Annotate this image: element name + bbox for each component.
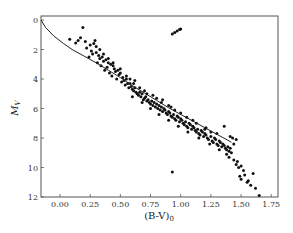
star-point — [68, 38, 71, 41]
star-point — [254, 187, 257, 190]
star-point — [94, 39, 97, 42]
star-point — [124, 83, 127, 86]
star-point — [127, 86, 130, 89]
star-point — [149, 107, 152, 110]
star-point — [223, 144, 226, 147]
star-point — [161, 98, 164, 101]
star-point — [177, 125, 180, 128]
star-point — [217, 144, 220, 147]
star-point — [235, 163, 238, 166]
star-point — [158, 113, 161, 116]
x-tick-label: 1.50 — [232, 200, 250, 209]
star-point — [223, 125, 226, 128]
star-point — [186, 126, 189, 129]
y-tick-label: 8 — [33, 134, 38, 143]
star-point — [141, 101, 144, 104]
star-point — [92, 42, 95, 45]
y-tick-label: 12 — [28, 193, 38, 202]
star-point — [205, 134, 208, 137]
star-point — [112, 64, 115, 67]
star-point — [142, 98, 145, 101]
star-point — [229, 147, 232, 150]
x-tick-label: 1.75 — [262, 200, 280, 209]
star-point — [196, 128, 199, 131]
x-tick-label: 1.00 — [172, 200, 190, 209]
star-point — [119, 67, 122, 70]
star-point — [132, 82, 135, 85]
star-point — [243, 173, 246, 176]
star-point — [228, 156, 231, 159]
star-point — [139, 95, 142, 98]
star-point — [144, 95, 147, 98]
star-point — [218, 148, 221, 151]
star-point — [84, 40, 87, 43]
star-point — [236, 160, 239, 163]
star-point — [95, 45, 98, 48]
star-point — [112, 61, 115, 64]
star-point — [131, 95, 134, 98]
star-point — [225, 153, 228, 156]
star-point — [197, 137, 200, 140]
star-point — [97, 54, 100, 57]
x-tick-label: 0.75 — [142, 200, 160, 209]
y-tick-label: 4 — [33, 75, 38, 84]
x-tick-label: 0.50 — [111, 200, 129, 209]
star-point — [240, 165, 243, 168]
y-tick-label: 0 — [33, 16, 38, 25]
y-tick-label: 6 — [33, 105, 38, 114]
star-point — [237, 166, 240, 169]
star-point — [209, 135, 212, 138]
star-point — [102, 52, 105, 55]
star-point — [212, 141, 215, 144]
star-point — [249, 184, 252, 187]
star-point — [129, 78, 132, 81]
star-point — [179, 27, 182, 30]
star-point — [174, 119, 177, 122]
hr-diagram-chart: 0.000.250.500.751.001.251.501.75 0246810… — [0, 0, 293, 233]
star-point — [235, 138, 238, 141]
star-point — [113, 67, 116, 70]
star-point — [133, 79, 136, 82]
star-point — [153, 101, 156, 104]
star-point — [193, 126, 196, 129]
star-point — [180, 119, 183, 122]
star-point — [252, 172, 255, 175]
star-point — [207, 138, 210, 141]
star-point — [208, 142, 211, 145]
y-tick-label: 2 — [33, 46, 38, 55]
star-point — [115, 78, 118, 81]
star-point — [199, 134, 202, 137]
star-point — [77, 39, 80, 42]
x-tick-label: 1.25 — [202, 200, 220, 209]
star-point — [172, 113, 175, 116]
y-axis-label: MV — [9, 99, 22, 116]
star-point — [120, 81, 123, 84]
star-point — [232, 159, 235, 162]
star-point — [164, 109, 167, 112]
star-point — [89, 44, 92, 47]
star-point — [125, 78, 128, 81]
star-point — [240, 178, 243, 181]
star-point — [258, 194, 261, 197]
star-point — [110, 75, 113, 78]
star-point — [214, 138, 217, 141]
x-tick-label: 0.00 — [51, 200, 69, 209]
star-point — [238, 175, 241, 178]
star-point — [125, 75, 128, 78]
star-point — [119, 72, 122, 75]
star-point — [91, 52, 94, 55]
star-point — [184, 120, 187, 123]
star-point — [246, 181, 249, 184]
star-point — [95, 51, 98, 54]
y-tick-label: 10 — [28, 164, 38, 173]
star-point — [167, 119, 170, 122]
star-point — [85, 47, 88, 50]
star-point — [231, 137, 234, 140]
x-axis-label: (B-V)0 — [144, 210, 174, 223]
star-point — [151, 94, 154, 97]
star-point — [98, 48, 101, 51]
star-point — [74, 41, 77, 44]
star-point — [151, 104, 154, 107]
x-tick-label: 0.25 — [81, 200, 99, 209]
star-point — [79, 36, 82, 39]
